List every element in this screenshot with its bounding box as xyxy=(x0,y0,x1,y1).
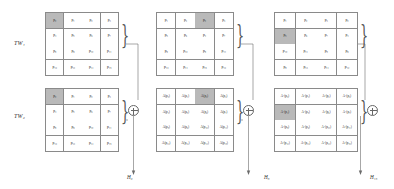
grid-cell: p₇ xyxy=(101,29,118,44)
grid-cell: p₁₁ xyxy=(215,44,233,59)
grid-cell: Aᴸ(p₀) xyxy=(275,89,295,104)
grid-cell: p₉ xyxy=(64,120,81,135)
grid-cell: p₁₃ xyxy=(64,136,81,151)
brace-top-icon: } xyxy=(360,22,368,48)
grid-cell: Aᴸ(p₂) xyxy=(316,89,336,104)
grid-cell: A(p₃) xyxy=(215,89,233,104)
output-label-stage-0: H₀ xyxy=(127,174,133,180)
stage-1-top-grid: p₁p₂p₀p₃p₅p₆p₄p₇p₉p₁₀p₈p₁₁p₁₃p₁₄p₁₅p₁₂ xyxy=(156,12,234,76)
stage-0-bottom-grid: p₀p₁p₂p₃p₄p₅p₆p₇p₈p₉p₁₀p₁₁p₁₂p₁₃p₁₄p₁₅ xyxy=(45,88,119,152)
grid-cell: p₁₀ xyxy=(82,44,99,59)
grid-cell-highlighted: Aᴸ(p₄) xyxy=(275,105,295,120)
grid-cell-highlighted: A(p₂) xyxy=(195,89,213,104)
grid-cell: Aᴸ(p₅) xyxy=(296,105,316,120)
grid-cell: p₀ xyxy=(337,13,357,28)
grid-cell: p₁₁ xyxy=(296,44,316,59)
grid-cell: A(p₄) xyxy=(157,105,175,120)
grid-cell: p₂ xyxy=(296,13,316,28)
grid-cell: p₁₀ xyxy=(275,44,295,59)
grid-cell: A(p₁₁) xyxy=(215,120,233,135)
stage-0-top-grid: p₀p₁p₂p₃p₄p₅p₆p₇p₈p₉p₁₀p₁₁p₁₂p₁₃p₁₄p₁₅ xyxy=(45,12,119,76)
grid-cell: Aᴸ(p₁₃) xyxy=(296,136,316,151)
grid-cell: Aᴸ(p₁₀) xyxy=(316,120,336,135)
grid-cell: p₁₂ xyxy=(337,60,357,75)
grid-cell: p₄ xyxy=(195,29,213,44)
grid-cell: p₁₂ xyxy=(215,60,233,75)
grid-cell: p₁ xyxy=(157,13,175,28)
grid-cell: p₉ xyxy=(157,44,175,59)
grid-cell: p₃ xyxy=(215,13,233,28)
grid-cell-highlighted: p₀ xyxy=(46,89,63,104)
grid-cell: p₁₂ xyxy=(46,136,63,151)
grid-cell: p₉ xyxy=(64,44,81,59)
grid-cell: p₁ xyxy=(275,13,295,28)
grid-cell: p₁₄ xyxy=(82,60,99,75)
grid-cell: p₁₅ xyxy=(101,136,118,151)
grid-cell: p₈ xyxy=(46,44,63,59)
grid-cell: p₁₅ xyxy=(101,60,118,75)
stage-2-bottom-grid: Aᴸ(p₀)Aᴸ(p₁)Aᴸ(p₂)Aᴸ(p₃)Aᴸ(p₄)Aᴸ(p₅)Aᴸ(p… xyxy=(274,88,358,152)
grid-cell: p₁₃ xyxy=(64,60,81,75)
grid-cell: p₁₄ xyxy=(82,136,99,151)
grid-cell: p₁ xyxy=(64,13,81,28)
grid-cell: p₁₀ xyxy=(176,44,194,59)
grid-cell: p₁₁ xyxy=(101,44,118,59)
grid-cell: p₁₅ xyxy=(195,60,213,75)
grid-cell: Aᴸ(p₁₁) xyxy=(337,120,357,135)
grid-cell-highlighted: p₀ xyxy=(46,13,63,28)
grid-cell: p₇ xyxy=(101,105,118,120)
grid-cell-highlighted: p₀ xyxy=(195,13,213,28)
grid-cell: p₂ xyxy=(82,13,99,28)
grid-cell: p₅ xyxy=(157,29,175,44)
grid-cell: p₈ xyxy=(316,44,336,59)
stage-2-top-grid: p₁p₂p₃p₀p₅p₆p₇p₄p₁₀p₁₁p₈p₉p₈p₁₃p₁₄p₁₂ xyxy=(274,12,358,76)
oplus-operator-icon xyxy=(367,105,378,116)
brace-top-icon: } xyxy=(236,22,244,48)
grid-cell: p₁₃ xyxy=(157,60,175,75)
grid-cell: p₅ xyxy=(64,105,81,120)
grid-cell: p₈ xyxy=(195,44,213,59)
grid-cell: p₃ xyxy=(316,13,336,28)
grid-cell: Aᴸ(p₃) xyxy=(337,89,357,104)
grid-cell: p₁ xyxy=(64,89,81,104)
grid-cell: p₇ xyxy=(316,29,336,44)
stage-2: p₁p₂p₃p₀p₅p₆p₇p₄p₁₀p₁₁p₈p₉p₈p₁₃p₁₄p₁₂ Aᴸ… xyxy=(264,0,394,189)
grid-cell: A(p₅) xyxy=(176,105,194,120)
grid-cell: p₁₂ xyxy=(46,60,63,75)
grid-cell: A(p₉) xyxy=(176,120,194,135)
grid-cell: Aᴸ(p₁₄) xyxy=(316,136,336,151)
grid-cell: p₄ xyxy=(337,29,357,44)
stage-1-bottom-grid: A(p₀)A(p₁)A(p₂)A(p₃)A(p₄)A(p₅)A(p₆)A(p₇)… xyxy=(156,88,234,152)
grid-cell: p₁₄ xyxy=(316,60,336,75)
grid-cell: p₃ xyxy=(101,89,118,104)
grid-cell: A(p₁₀) xyxy=(195,120,213,135)
grid-cell: A(p₁₂) xyxy=(157,136,175,151)
grid-cell: A(p₇) xyxy=(215,105,233,120)
grid-cell: p₃ xyxy=(101,13,118,28)
grid-cell: p₆ xyxy=(82,29,99,44)
grid-cell: A(p₁₃) xyxy=(176,136,194,151)
grid-cell: Aᴸ(p₇) xyxy=(337,105,357,120)
grid-cell: p₈ xyxy=(275,60,295,75)
grid-cell: A(p₁₄) xyxy=(195,136,213,151)
grid-cell: Aᴸ(p₈) xyxy=(275,120,295,135)
grid-cell: Aᴸ(p₁₂) xyxy=(275,136,295,151)
grid-cell: p₇ xyxy=(215,29,233,44)
grid-cell-highlighted: p₅ xyxy=(275,29,295,44)
grid-cell: A(p₈) xyxy=(157,120,175,135)
grid-cell: Aᴸ(p₆) xyxy=(316,105,336,120)
grid-cell: p₂ xyxy=(82,89,99,104)
oplus-operator-icon xyxy=(243,105,254,116)
grid-cell: p₆ xyxy=(296,29,316,44)
grid-cell: p₆ xyxy=(176,29,194,44)
oplus-operator-icon xyxy=(128,105,139,116)
grid-cell: A(p₁) xyxy=(176,89,194,104)
grid-cell: Aᴸ(p₉) xyxy=(296,120,316,135)
grid-cell: A(p₀) xyxy=(157,89,175,104)
grid-cell: p₄ xyxy=(46,105,63,120)
grid-cell: p₁₁ xyxy=(101,120,118,135)
brace-top-icon: } xyxy=(121,22,129,48)
grid-cell: A(p₁₅) xyxy=(215,136,233,151)
grid-cell: p₁₄ xyxy=(176,60,194,75)
grid-cell: Aᴸ(p₁) xyxy=(296,89,316,104)
